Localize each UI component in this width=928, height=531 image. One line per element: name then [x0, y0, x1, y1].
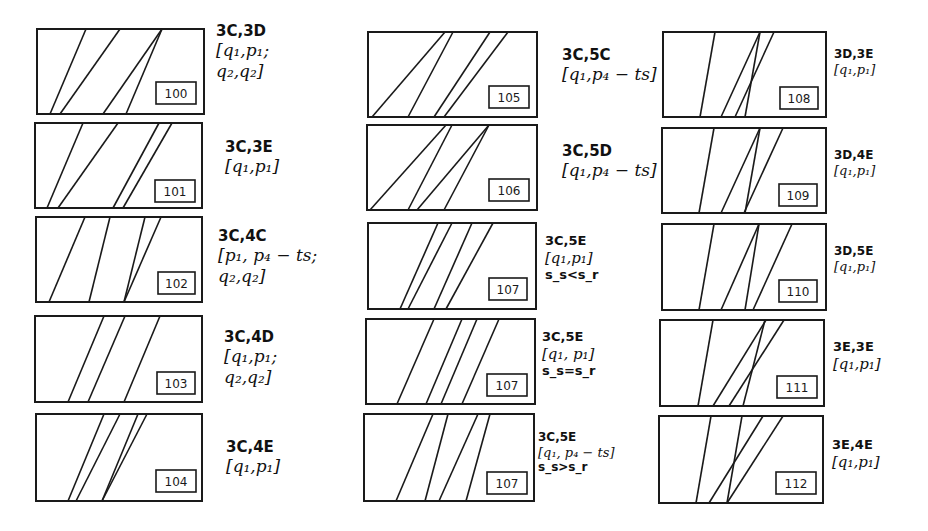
panel-100: 100	[37, 29, 204, 114]
state-pair-code: 3D,3E	[834, 47, 875, 62]
panel-label: 3E,4E[q₁,p₁]	[832, 437, 880, 471]
panel-number: 111	[786, 381, 809, 395]
solution-expression: [q₁,p₁]	[833, 355, 881, 373]
trajectory-line	[698, 320, 713, 406]
panel-108: 108	[663, 32, 826, 117]
trajectory-line	[102, 414, 147, 501]
panel-112: 112	[659, 416, 823, 503]
trajectory-line	[700, 32, 715, 117]
trajectory-line	[745, 128, 760, 213]
panel-107: 107	[366, 319, 535, 404]
panel-number: 107	[496, 477, 519, 491]
panel-103: 103	[35, 316, 202, 402]
panel-107: 107	[368, 223, 536, 309]
trajectory-line	[721, 128, 760, 213]
trajectory-line	[396, 414, 433, 501]
panel-101: 101	[35, 123, 202, 208]
trajectory-line	[408, 125, 452, 210]
speed-condition: s_s<s_r	[545, 267, 599, 283]
state-pair-code: 3C,5E	[542, 329, 596, 345]
trajectory-line	[370, 125, 446, 210]
panel-label: 3C,4E[q₁,p₁]	[226, 438, 280, 477]
trajectory-line	[744, 128, 783, 213]
state-pair-code: 3D,5E	[834, 244, 875, 259]
panel-label: 3C,3D[q₁,p₁;q₂,q₂]	[216, 22, 269, 82]
panel-label: 3C,3E[q₁,p₁]	[225, 138, 279, 177]
panel-number: 108	[788, 92, 811, 106]
panel-number: 112	[785, 477, 808, 491]
trajectory-line	[89, 217, 110, 302]
trajectory-line	[745, 224, 759, 310]
state-pair-code: 3C,3D	[216, 22, 269, 40]
solution-expression: [q₁,p₁]	[545, 249, 599, 267]
state-pair-code: 3C,4E	[226, 438, 280, 456]
trajectory-line	[397, 319, 434, 404]
trajectory-line	[68, 316, 104, 402]
solution-expression: [q₁,p₁;	[224, 346, 277, 367]
solution-expression: q₂,q₂]	[216, 61, 269, 82]
state-pair-code: 3E,3E	[833, 339, 881, 355]
state-pair-code: 3C,3E	[225, 138, 279, 156]
panel-label: 3C,5E[q₁, p₄ − ts]s_s>s_r	[538, 430, 615, 475]
panel-label: 3D,3E[q₁,p₁]	[834, 47, 875, 77]
solution-expression: q₂,q₂]	[224, 367, 277, 388]
speed-condition: s_s=s_r	[542, 363, 596, 379]
solution-expression: [q₁,p₄ − ts]	[562, 64, 657, 85]
trajectory-line	[408, 32, 453, 117]
trajectory-line	[124, 316, 160, 402]
panel-label: 3C,5C[q₁,p₄ − ts]	[562, 46, 657, 85]
trajectory-line	[408, 223, 452, 309]
solution-expression: [q₁, p₄ − ts]	[538, 445, 615, 461]
panel-111: 111	[660, 320, 824, 406]
panel-label: 3C,5E[q₁, p₁]s_s=s_r	[542, 329, 596, 379]
trajectory-line	[434, 32, 490, 117]
trajectory-line	[50, 29, 86, 114]
trajectory-line	[58, 123, 118, 208]
solution-expression: [q₁,p₁]	[834, 259, 875, 275]
panel-grid: 1001011021031041051061071071071081091101…	[0, 0, 928, 531]
panel-label: 3C,4D[q₁,p₁;q₂,q₂]	[224, 328, 277, 388]
state-pair-code: 3D,4E	[834, 148, 875, 163]
solution-expression: [q₁,p₁]	[226, 456, 280, 477]
panel-107: 107	[364, 414, 534, 501]
panel-label: 3D,5E[q₁,p₁]	[834, 244, 875, 274]
trajectory-line	[721, 224, 759, 310]
solution-expression: [q₁, p₁]	[542, 345, 596, 363]
panel-label: 3C,5D[q₁,p₄ − ts]	[562, 142, 657, 181]
panel-number: 109	[787, 189, 810, 203]
trajectory-line	[47, 123, 83, 208]
trajectory-line	[417, 125, 489, 210]
solution-expression: [q₁,p₄ − ts]	[562, 160, 657, 181]
state-pair-code: 3C,5D	[562, 142, 657, 160]
trajectory-line	[699, 128, 714, 213]
trajectory-line	[49, 217, 85, 302]
panel-104: 104	[36, 414, 202, 501]
panel-number: 102	[165, 277, 188, 291]
trajectory-line	[400, 223, 438, 309]
trajectory-line	[696, 416, 711, 503]
panel-106: 106	[367, 125, 537, 210]
panel-number: 106	[498, 184, 521, 198]
panel-number: 101	[164, 185, 187, 199]
solution-expression: q₂,q₂]	[218, 266, 317, 287]
trajectory-line	[441, 319, 477, 404]
trajectory-line	[372, 32, 445, 117]
trajectory-line	[699, 224, 714, 310]
solution-expression: [q₁,p₁]	[834, 163, 875, 179]
solution-expression: [q₁,p₁]	[834, 62, 875, 78]
state-pair-code: 3C,4D	[224, 328, 277, 346]
panel-102: 102	[36, 217, 202, 302]
trajectory-line	[88, 316, 125, 402]
solution-expression: [q₁,p₁]	[225, 156, 279, 177]
trajectory-line	[113, 123, 159, 208]
state-pair-code: 3C,5E	[538, 430, 615, 445]
state-pair-code: 3C,5E	[545, 233, 599, 249]
state-pair-code: 3C,4C	[218, 227, 317, 245]
trajectory-line	[745, 32, 760, 117]
solution-expression: [q₁,p₁;	[216, 40, 269, 61]
speed-condition: s_s>s_r	[538, 460, 615, 475]
state-pair-code: 3E,4E	[832, 437, 880, 453]
panel-label: 3D,4E[q₁,p₁]	[834, 148, 875, 178]
panel-number: 100	[165, 87, 188, 101]
panel-105: 105	[368, 32, 537, 117]
